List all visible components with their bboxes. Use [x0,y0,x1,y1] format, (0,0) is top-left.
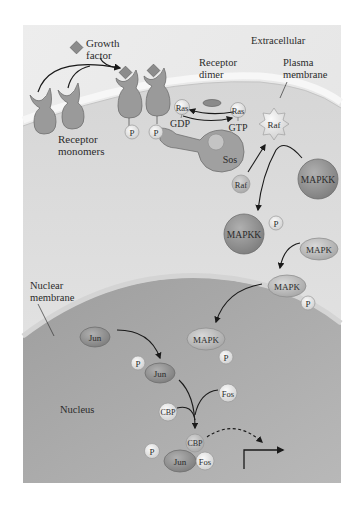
fos-complex: Fos [196,452,214,470]
svg-text:P: P [153,128,158,138]
svg-text:Jun: Jun [174,457,187,467]
phosphate-mapk-nucleus: P [219,350,233,364]
jun-phosphorylated: Jun [145,363,175,383]
mapk-active-cytoplasm: MAPK [268,275,306,297]
mapk-active-nucleus: MAPK [187,328,225,350]
gap-oval [203,100,221,107]
mapkk-inactive: MAPKK [298,159,338,199]
svg-text:Jun: Jun [154,369,167,379]
extracellular-label: Extracellular [251,35,306,46]
svg-text:P: P [223,353,228,363]
svg-text:CBP: CBP [160,408,176,417]
svg-text:GDP: GDP [170,118,190,129]
jun-complex: Jun [164,450,196,472]
mapkk-active: MAPKK [224,214,264,254]
nucleus-label: Nucleus [60,404,94,415]
svg-text:Ras: Ras [232,106,245,116]
svg-text:P: P [305,299,310,309]
raf-active: Raf [259,108,289,140]
mapk-inactive: MAPK [300,238,338,260]
svg-text:MAPK: MAPK [274,282,301,292]
cbp-complex: CBP [186,434,204,452]
phosphate-receptor-2: P [149,125,163,139]
phosphate-mapk-cytoplasm: P [301,296,315,310]
svg-text:Sos: Sos [223,154,238,165]
svg-text:P: P [129,128,134,138]
svg-text:GTP: GTP [229,122,248,133]
phosphate-complex: P [145,444,160,459]
mapk-pathway-diagram: Growth factor P Sos P Receptor monomers … [0,0,358,506]
phosphate-mapkk: P [269,216,283,230]
svg-text:Fos: Fos [199,457,211,467]
phosphate-receptor-1: P [125,125,139,139]
svg-text:MAPK: MAPK [193,335,220,345]
svg-text:P: P [135,359,140,369]
svg-text:P: P [273,219,278,229]
svg-text:Fos: Fos [222,389,234,399]
svg-text:MAPKK: MAPKK [227,230,261,240]
raf-inactive: Raf [232,175,250,193]
svg-text:Raf: Raf [235,180,247,190]
receptor-monomers-label: Receptor monomers [58,133,104,157]
phosphate-jun: P [131,356,145,370]
svg-text:MAPK: MAPK [306,245,333,255]
svg-text:MAPKK: MAPKK [301,175,335,185]
fos-free: Fos [219,384,237,402]
svg-text:Jun: Jun [89,333,102,343]
jun-inactive: Jun [80,327,110,347]
svg-text:P: P [149,447,154,457]
svg-text:Ras: Ras [176,103,189,113]
svg-text:Raf: Raf [268,120,281,130]
cbp-free: CBP [159,403,177,421]
svg-text:CBP: CBP [187,439,203,448]
